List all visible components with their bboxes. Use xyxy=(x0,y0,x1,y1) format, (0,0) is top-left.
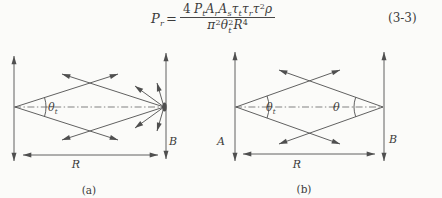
beam-edge-upper xyxy=(15,74,118,107)
receive-angle-label: θ xyxy=(333,101,340,114)
caption-b: (b) xyxy=(297,183,312,195)
beam-edge-lower xyxy=(15,107,118,140)
scatter-ray-down-left xyxy=(135,107,164,128)
beam-angle-label: θt xyxy=(48,101,58,116)
receive-beam-lower xyxy=(279,107,383,144)
diagram-b: θt θ A B R (b) xyxy=(216,52,397,195)
receiver-label: B xyxy=(388,133,397,146)
scatter-ray-lower-long xyxy=(62,107,164,140)
scatter-ray-down xyxy=(157,107,164,131)
transmit-beam-lower xyxy=(236,107,340,144)
scatter-ray-up xyxy=(157,83,164,107)
figure-diagrams: θt B R (a) θt θ A B R (b) xyxy=(0,0,442,198)
transmitter-label: A xyxy=(216,135,225,148)
caption-a: (a) xyxy=(82,184,96,196)
transmit-beam-upper xyxy=(236,70,340,107)
paper-page: Pr = 4PtArAsτtτrτ2ρ π2θ2tR4 (3-3) xyxy=(0,0,442,198)
receive-angle-arc xyxy=(354,97,356,116)
range-label: R xyxy=(71,158,80,171)
scatter-ray-up-left xyxy=(135,86,164,107)
transmit-angle-label: θt xyxy=(266,101,276,116)
range-label: R xyxy=(292,158,301,171)
receiver-label: B xyxy=(168,135,177,148)
diagram-a: θt B R (a) xyxy=(14,53,177,196)
scatter-ray-upper-long xyxy=(62,74,164,107)
receive-beam-upper xyxy=(279,70,383,107)
